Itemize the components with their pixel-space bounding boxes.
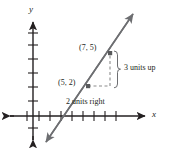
point-label-lower: (5, 2) xyxy=(58,79,75,87)
point-marker-upper xyxy=(108,51,112,55)
coordinate-plane-figure: x y (7, 5) (5, 2) 3 units up 2 units rig… xyxy=(0,0,171,150)
y-axis-label: y xyxy=(29,5,33,14)
x-axis-label: x xyxy=(152,110,156,119)
graph-canvas xyxy=(0,0,171,150)
rise-annotation-label: 3 units up xyxy=(124,64,156,72)
run-annotation-label: 2 units right xyxy=(66,98,105,106)
point-marker-lower xyxy=(86,84,90,88)
point-label-upper: (7, 5) xyxy=(79,44,96,52)
rise-brace xyxy=(114,51,121,88)
